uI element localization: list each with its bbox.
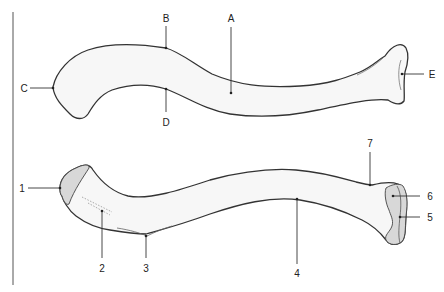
label-5: 5: [427, 212, 433, 223]
lower-clavicle-view: 1 2 3 4 5 6 7: [19, 138, 433, 279]
upper-bone-outline: [53, 45, 408, 119]
lower-bone-outline: [60, 165, 407, 244]
marker-d: [165, 88, 168, 91]
label-b: B: [163, 13, 170, 24]
label-c: C: [20, 83, 27, 94]
marker-6: [392, 195, 395, 198]
marker-b: [165, 47, 168, 50]
marker-e: [401, 73, 404, 76]
marker-a: [230, 92, 233, 95]
label-7: 7: [367, 138, 373, 149]
marker-2: [101, 210, 104, 213]
marker-c: [52, 87, 55, 90]
label-4: 4: [294, 268, 300, 279]
upper-clavicle-view: A B C D E: [20, 13, 435, 128]
label-1: 1: [19, 183, 25, 194]
marker-5: [399, 216, 402, 219]
marker-4: [296, 198, 299, 201]
label-d: D: [162, 117, 169, 128]
marker-1: [59, 187, 62, 190]
clavicle-diagram: A B C D E 1 2: [0, 0, 444, 292]
label-6: 6: [427, 191, 433, 202]
marker-7: [369, 184, 372, 187]
label-e: E: [429, 69, 436, 80]
marker-3: [145, 235, 148, 238]
label-a: A: [228, 13, 235, 24]
label-3: 3: [143, 263, 149, 274]
label-2: 2: [99, 263, 105, 274]
